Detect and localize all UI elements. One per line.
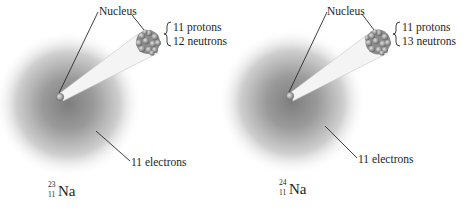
mass-number-right: 24 <box>279 179 287 187</box>
isotope-symbol-right: 24 11 Na <box>279 181 307 197</box>
electron-cloud-right <box>218 28 366 176</box>
brace-left <box>164 22 171 46</box>
brace-right <box>393 22 400 46</box>
element-symbol-left: Na <box>58 184 76 199</box>
isotope-scripts-left: 23 11 <box>48 183 58 199</box>
atom-right <box>218 12 391 176</box>
nucleus-dot-right <box>286 92 294 100</box>
neutrons-label-right: 13 neutrons <box>402 36 456 48</box>
isotope-diagram: Nucleus 11 protons 12 neutrons 11 electr… <box>0 0 470 212</box>
nucleus-label-right: Nucleus <box>327 6 365 18</box>
isotope-symbol-left: 23 11 Na <box>48 183 76 199</box>
mass-number-left: 23 <box>48 181 56 189</box>
nucleus-dot-left <box>56 93 64 101</box>
element-symbol-right: Na <box>289 182 307 197</box>
atomic-number-right: 11 <box>279 189 286 197</box>
protons-label-right: 11 protons <box>402 22 450 34</box>
atom-left <box>0 12 161 178</box>
electrons-label-right: 11 electrons <box>358 154 413 166</box>
electrons-label-left: 11 electrons <box>131 157 186 169</box>
nucleus-label-left: Nucleus <box>99 6 137 18</box>
atom-illustrations <box>0 0 470 212</box>
neutrons-label-left: 12 neutrons <box>173 36 227 48</box>
isotope-scripts-right: 24 11 <box>279 181 289 197</box>
protons-label-left: 11 protons <box>173 22 221 34</box>
atomic-number-left: 11 <box>48 191 55 199</box>
